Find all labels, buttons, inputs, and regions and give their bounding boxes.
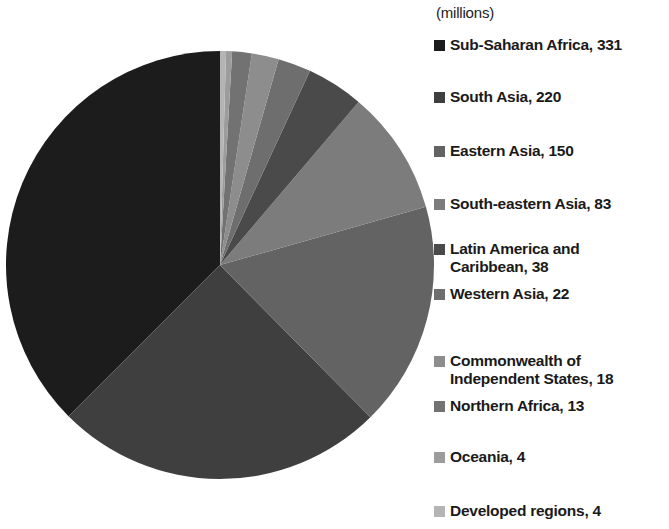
legend-item[interactable]: Developed regions, 4	[434, 502, 667, 520]
legend-item-label: Eastern Asia, 150	[450, 142, 574, 160]
legend-swatch-icon	[434, 452, 445, 463]
legend-item-label: Northern Africa, 13	[450, 397, 584, 415]
legend-item-label: South Asia, 220	[450, 88, 561, 106]
legend-item-label: Western Asia, 22	[450, 285, 569, 303]
legend-swatch-icon	[434, 506, 445, 517]
legend-item[interactable]: Commonwealth of Independent States, 18	[434, 352, 667, 388]
legend-units-note: (millions)	[436, 4, 494, 21]
legend-swatch-icon	[434, 401, 445, 412]
pie-plot-area	[0, 0, 440, 529]
legend-item[interactable]: Eastern Asia, 150	[434, 142, 667, 160]
legend-item[interactable]: South Asia, 220	[434, 88, 667, 106]
pie-slice-group	[6, 51, 434, 479]
legend-swatch-icon	[434, 92, 445, 103]
legend-item-label: Developed regions, 4	[450, 502, 601, 520]
legend-swatch-icon	[434, 244, 445, 255]
pie-chart-figure: (millions) Sub-Saharan Africa, 331South …	[0, 0, 669, 529]
legend-item[interactable]: Western Asia, 22	[434, 285, 667, 303]
legend-item-label: South-eastern Asia, 83	[450, 195, 611, 213]
legend-swatch-icon	[434, 199, 445, 210]
legend-swatch-icon	[434, 40, 445, 51]
legend-swatch-icon	[434, 356, 445, 367]
legend-swatch-icon	[434, 146, 445, 157]
legend-item[interactable]: Oceania, 4	[434, 448, 667, 466]
legend-item-label: Sub-Saharan Africa, 331	[450, 36, 622, 54]
legend-item[interactable]: Latin America and Caribbean, 38	[434, 240, 667, 276]
pie-svg	[0, 0, 440, 529]
legend-item[interactable]: Northern Africa, 13	[434, 397, 667, 415]
legend-item-label: Commonwealth of Independent States, 18	[450, 352, 613, 388]
legend-item-label: Oceania, 4	[450, 448, 525, 466]
legend-item[interactable]: South-eastern Asia, 83	[434, 195, 667, 213]
chart-legend: (millions) Sub-Saharan Africa, 331South …	[432, 0, 669, 529]
legend-item-label: Latin America and Caribbean, 38	[450, 240, 580, 276]
legend-swatch-icon	[434, 289, 445, 300]
legend-item[interactable]: Sub-Saharan Africa, 331	[434, 36, 667, 54]
